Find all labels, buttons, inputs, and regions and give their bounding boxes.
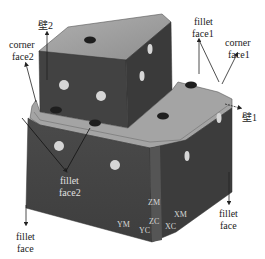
diagram-canvas: 壁2 corner face2 fillet face1 corner face… [0,0,265,259]
hole-icon [50,107,62,114]
vertical-fillet-face [150,146,162,242]
axis-label-yc: YC [139,226,150,235]
label-corner-face1-line2: face1 [228,49,250,60]
part-drawing: 壁2 corner face2 fillet face1 corner face… [0,0,265,259]
hole-icon [89,120,101,127]
axis-label-zm: ZM [148,198,160,207]
hole-icon [140,71,145,81]
label-corner-face1-line1: corner [225,37,251,48]
corner-face2-arrow [26,64,36,102]
fillet-face1-diag-line [199,40,219,82]
hole-icon [54,141,64,151]
axis-label-xc: XC [165,222,176,231]
label-fillet-face-right-line2: face [220,220,237,231]
label-fillet-face1-line1: fillet [194,16,213,27]
label-fillet-face-left-line1: fillet [16,231,35,242]
axis-label-ym: YM [117,220,130,229]
label-fillet-face1-line2: face1 [192,28,214,39]
hole-icon [185,151,190,161]
label-wall2: 壁2 [38,19,53,31]
hole-icon [148,44,153,54]
label-fillet-face-right-line1: fillet [219,208,238,219]
hole-icon [217,113,222,123]
axis-label-zc: ZC [149,217,159,226]
label-wall1: 壁1 [242,111,257,123]
label-corner-face2-line2: face2 [12,51,34,62]
hole-icon [185,82,197,89]
label-corner-face2-line1: corner [9,39,35,50]
hole-icon [59,80,69,90]
hole-icon [157,113,169,120]
hole-icon [110,160,120,170]
hole-icon [96,91,106,101]
axis-label-xm: XM [174,210,187,219]
label-fillet-face2-line2: face2 [59,187,81,198]
label-fillet-face2-line1: fillet [60,175,79,186]
label-fillet-face-left-line2: face [17,243,34,254]
hole-icon [84,37,96,44]
